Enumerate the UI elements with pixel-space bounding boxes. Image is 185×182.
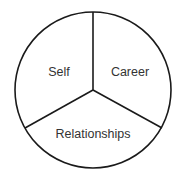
life-balance-circle-diagram: Self Career Relationships [0,0,185,182]
segment-label-relationships: Relationships [55,127,130,141]
segment-label-career: Career [111,65,149,79]
divider-lower-right [93,90,162,128]
divider-lower-left [25,90,93,128]
segment-label-self: Self [48,65,70,79]
